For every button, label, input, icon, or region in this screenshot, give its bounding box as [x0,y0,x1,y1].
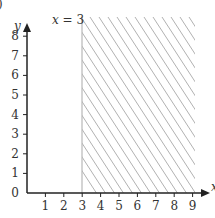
y-tick-label: 5 [11,88,19,102]
x-tick-label: 5 [115,199,123,213]
x-axis-label: x [211,180,215,194]
x-tick-label: 2 [60,199,68,213]
x-tick-label: 7 [152,199,160,213]
y-tick-label: 7 [11,49,19,63]
y-tick-label: 2 [11,147,19,161]
x-tick-label: 4 [97,199,105,213]
y-tick-label: 8 [11,29,19,43]
inequality-graph: ) x = 3 x y 123456789 012345678 [0,0,215,218]
x-tick-label: 9 [189,199,197,213]
x-ticks: 123456789 [42,193,197,213]
x-axis-arrow-icon [201,189,210,197]
boundary-line-label: x = 3 [52,13,84,27]
part-label: ) [0,0,3,11]
x-tick-label: 1 [42,199,50,213]
y-tick-label: 1 [11,166,19,180]
x-tick-label: 3 [78,199,86,213]
x-tick-label: 6 [134,199,142,213]
y-tick-label: 0 [11,186,19,200]
shaded-region [0,17,215,217]
x-tick-label: 8 [170,199,178,213]
y-tick-label: 4 [11,108,19,122]
y-axis-arrow-icon [23,23,31,32]
y-ticks: 012345678 [11,29,27,200]
y-tick-label: 6 [11,68,19,82]
y-tick-label: 3 [11,127,19,141]
